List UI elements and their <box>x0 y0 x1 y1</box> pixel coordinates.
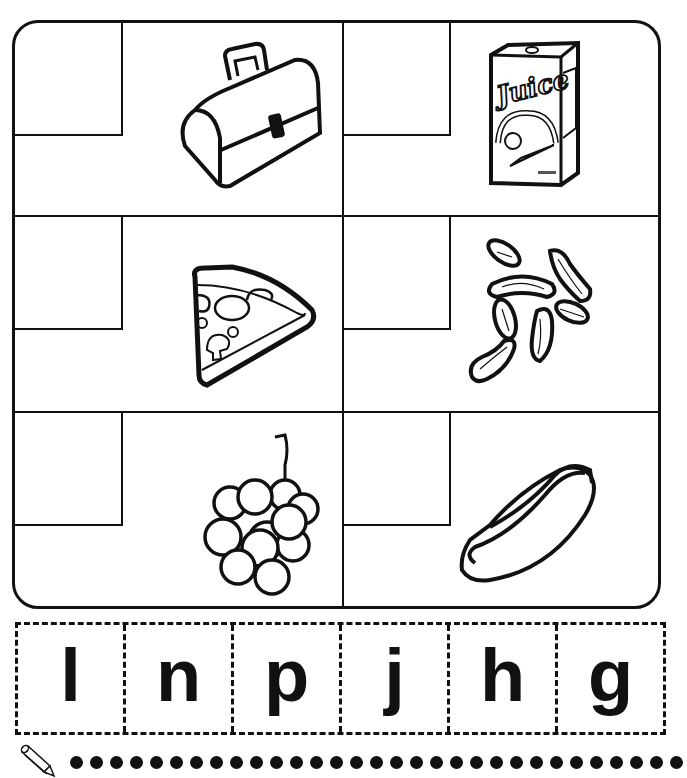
letter-tile-label: l <box>60 639 81 713</box>
dot <box>170 756 183 769</box>
letter-tile-strip: l n p j h g <box>15 622 666 735</box>
letter-tile-label: n <box>156 639 201 713</box>
dot <box>350 756 363 769</box>
grapes-icon <box>205 425 320 585</box>
letter-tile[interactable]: j <box>342 625 450 732</box>
dot <box>310 756 323 769</box>
dot <box>70 756 83 769</box>
answer-box[interactable] <box>344 413 451 526</box>
cell-pizza <box>15 217 342 411</box>
dot <box>650 756 663 769</box>
dot <box>570 756 583 769</box>
dot <box>590 756 603 769</box>
dot <box>270 756 283 769</box>
dot <box>150 756 163 769</box>
dot <box>250 756 263 769</box>
letter-tile-label: g <box>588 639 633 713</box>
picture-grid: Juice <box>12 20 661 609</box>
letter-tile[interactable]: h <box>450 625 558 732</box>
dot <box>230 756 243 769</box>
pizza-slice-icon <box>187 265 322 390</box>
cell-grapes <box>15 413 342 609</box>
dot <box>330 756 343 769</box>
cell-juice: Juice <box>344 23 661 215</box>
cell-nuts <box>344 217 661 411</box>
letter-tile[interactable]: p <box>234 625 342 732</box>
dot <box>130 756 143 769</box>
dotted-line <box>70 756 687 769</box>
dot <box>90 756 103 769</box>
answer-box[interactable] <box>15 217 123 330</box>
letter-tile-label: h <box>480 639 525 713</box>
dot <box>510 756 523 769</box>
name-writing-line[interactable] <box>14 742 674 778</box>
cell-hotdog <box>344 413 661 609</box>
dot <box>190 756 203 769</box>
dot <box>210 756 223 769</box>
dot <box>550 756 563 769</box>
answer-box[interactable] <box>15 23 123 136</box>
dot <box>110 756 123 769</box>
letter-tile-label: p <box>264 639 309 713</box>
letter-tile[interactable]: g <box>558 625 663 732</box>
answer-box[interactable] <box>344 217 451 330</box>
lunchbox-icon <box>175 38 325 183</box>
pencil-icon <box>16 744 56 778</box>
letter-tile-label: j <box>384 639 405 713</box>
letter-tile[interactable]: n <box>126 625 234 732</box>
cell-lunchbox <box>15 23 342 215</box>
dot <box>290 756 303 769</box>
dot <box>410 756 423 769</box>
letter-tile[interactable]: l <box>18 625 126 732</box>
dot <box>610 756 623 769</box>
answer-box[interactable] <box>344 23 451 136</box>
dot <box>670 756 683 769</box>
dot <box>390 756 403 769</box>
dot <box>530 756 543 769</box>
dot <box>450 756 463 769</box>
juice-box-icon: Juice <box>486 33 586 173</box>
hot-dog-icon <box>450 455 600 585</box>
answer-box[interactable] <box>15 413 123 526</box>
peanuts-icon <box>462 239 592 389</box>
dot <box>490 756 503 769</box>
dot <box>630 756 643 769</box>
dot <box>370 756 383 769</box>
dot <box>430 756 443 769</box>
dot <box>470 756 483 769</box>
